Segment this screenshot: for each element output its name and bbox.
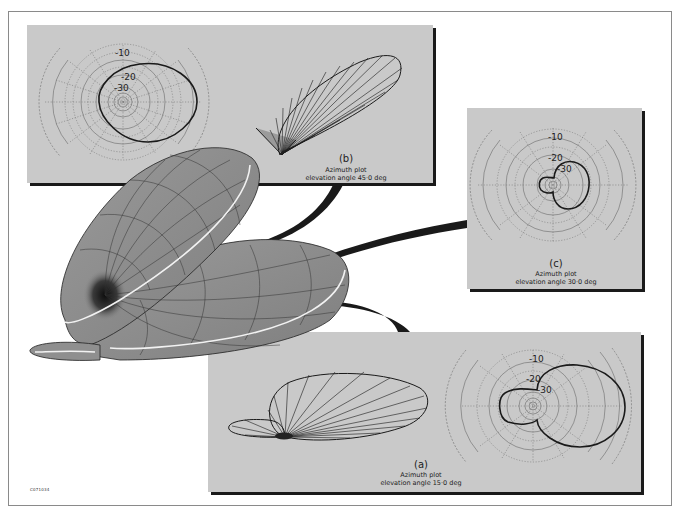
panel-a-letter: (a) — [414, 459, 428, 470]
tick-a-30: -30 — [537, 385, 552, 395]
radiation-pattern-diagram: -10 -20 -30 — [0, 0, 679, 512]
tick-b-10: -10 — [115, 48, 130, 58]
panel-b-caption-2: elevation angle 45·0 deg — [305, 174, 386, 182]
connector-b — [263, 185, 343, 245]
panel-a: -10 -20 -30 — [208, 332, 644, 495]
panel-a-caption-1: Azimuth plot — [400, 471, 442, 479]
panel-c-caption-2: elevation angle 30·0 deg — [515, 278, 596, 286]
tick-b-20: -20 — [121, 72, 136, 82]
panel-b-caption-1: Azimuth plot — [325, 166, 367, 174]
tick-c-30: -30 — [557, 164, 572, 174]
panel-c-caption-1: Azimuth plot — [535, 270, 577, 278]
tick-a-10: -10 — [529, 354, 544, 364]
panel-b-letter: (b) — [339, 153, 353, 164]
tick-c-10: -10 — [548, 132, 563, 142]
tick-a-20: -20 — [526, 374, 541, 384]
panel-c: -10 -20 -30 (c) Azimuth plot elevation a… — [467, 108, 645, 292]
tick-b-30: -30 — [114, 83, 129, 93]
tick-c-20: -20 — [548, 153, 563, 163]
panel-c-letter: (c) — [549, 258, 562, 269]
figure-code: C071034 — [30, 487, 49, 492]
panel-a-caption-2: elevation angle 15·0 deg — [380, 479, 461, 487]
